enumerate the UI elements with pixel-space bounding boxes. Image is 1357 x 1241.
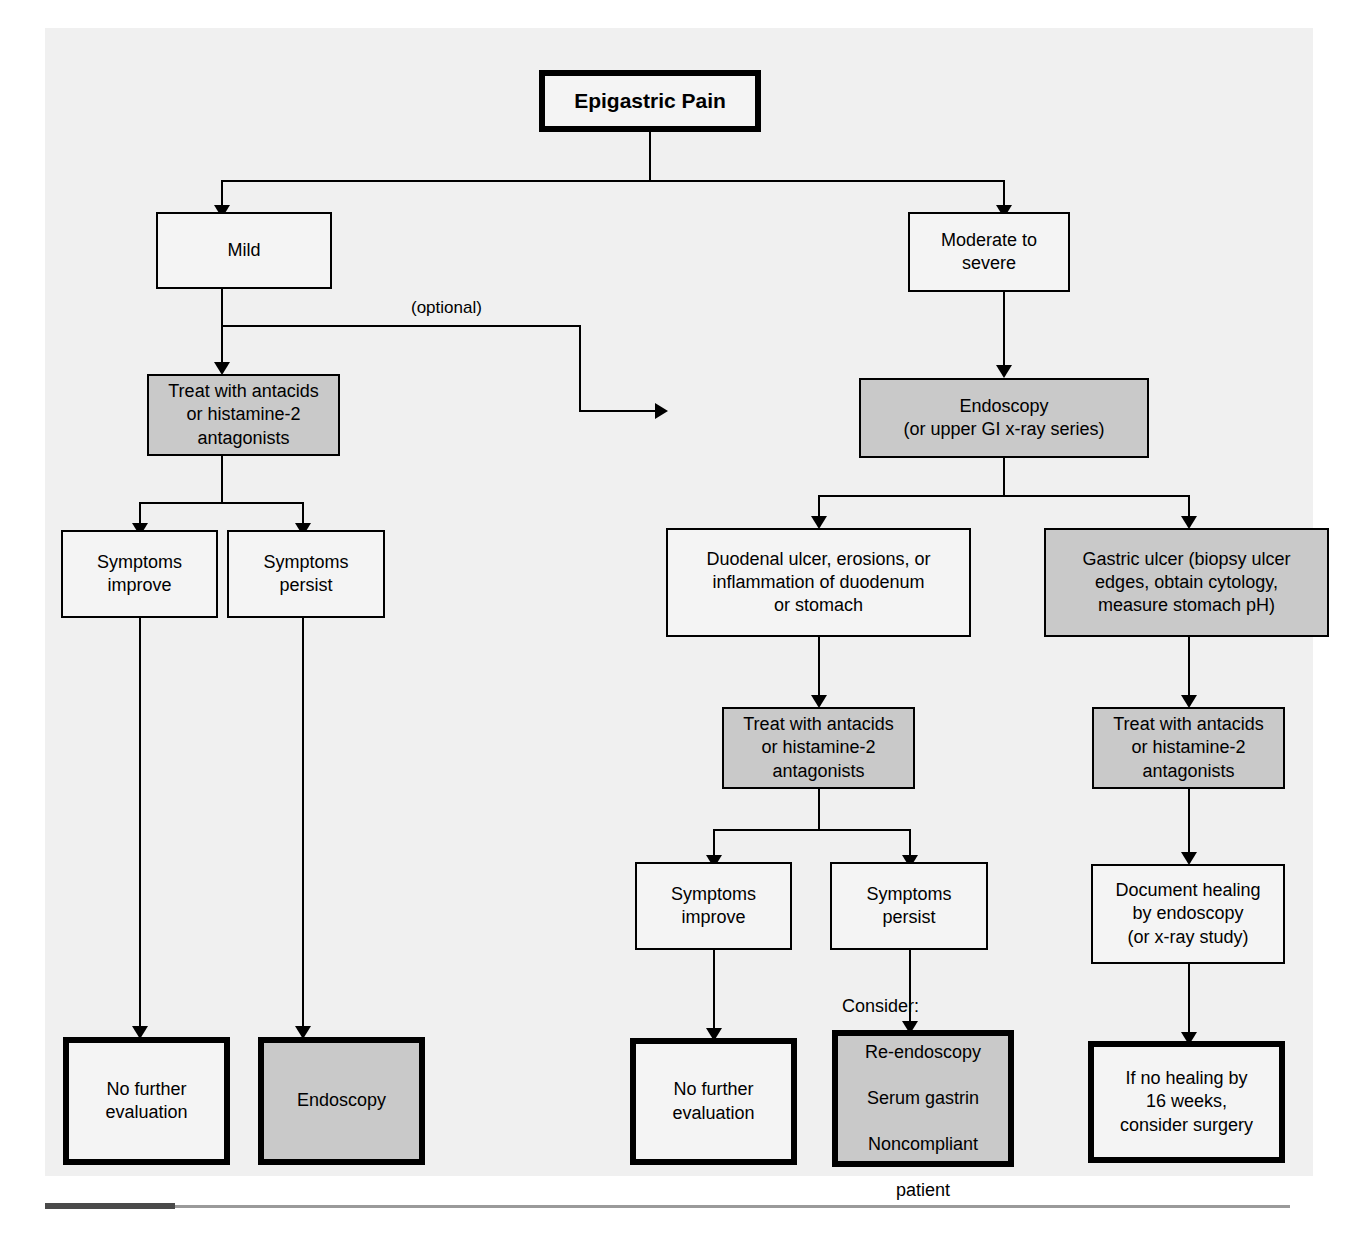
connector-treat-mid-split-bar (713, 829, 911, 831)
node-symptoms-improve-left[interactable]: Symptoms improve (61, 530, 218, 618)
node-moderate-to-severe[interactable]: Moderate to severe (908, 212, 1070, 292)
node-document-healing[interactable]: Document healing by endoscopy (or x-ray … (1091, 864, 1285, 964)
node-duodenal-ulcer-finding[interactable]: Duodenal ulcer, erosions, or inflammatio… (666, 528, 971, 637)
connector-sym-persist-l-to-endoscopy (302, 617, 304, 1035)
node-no-further-evaluation-left[interactable]: No further evaluation (63, 1037, 230, 1165)
figure-page: (optional) Epigastric Pain Mild (0, 0, 1357, 1241)
node-treat-with-antacids-left[interactable]: Treat with antacids or histamine-2 antag… (147, 374, 340, 456)
node-endoscopy-main[interactable]: Endoscopy (or upper GI x-ray series) (859, 378, 1149, 458)
connector-sym-improve-m-to-no-further (713, 949, 715, 1037)
connector-treat-left-split-bar (139, 502, 303, 504)
connector-treat-left-stem (221, 455, 223, 503)
arrow-moderate-to-endoscopy (996, 365, 1012, 378)
consider-header: Consider: (842, 995, 1004, 1018)
node-if-no-healing[interactable]: If no healing by 16 weeks, consider surg… (1088, 1041, 1285, 1163)
node-no-further-evaluation-middle[interactable]: No further evaluation (630, 1038, 797, 1165)
connector-optional-horizontal-bottom (579, 410, 659, 412)
node-symptoms-persist-left[interactable]: Symptoms persist (227, 530, 385, 618)
connector-document-to-no-healing (1188, 963, 1190, 1041)
arrow-optional-to-endoscopy (655, 403, 668, 419)
consider-item-serum-gastrin: Serum gastrin (842, 1087, 1004, 1110)
connector-root-split-bar (221, 180, 1004, 182)
connector-root-stem (649, 131, 651, 181)
node-symptoms-improve-middle[interactable]: Symptoms improve (635, 862, 792, 950)
connector-optional-horizontal-top (221, 325, 581, 327)
connector-endoscopy-split-bar (818, 495, 1190, 497)
edge-label-optional: (optional) (411, 298, 482, 318)
footer-rule (45, 1205, 1290, 1208)
node-consider-options[interactable]: Consider: Re-endoscopy Serum gastrin Non… (832, 1030, 1014, 1167)
connector-treat-mid-stem (818, 788, 820, 831)
node-treat-with-antacids-right[interactable]: Treat with antacids or histamine-2 antag… (1092, 707, 1285, 789)
connector-moderate-to-endoscopy (1003, 291, 1005, 376)
node-mild[interactable]: Mild (156, 212, 332, 289)
node-endoscopy-terminal[interactable]: Endoscopy (258, 1037, 425, 1165)
node-gastric-ulcer-finding[interactable]: Gastric ulcer (biopsy ulcer edges, obtai… (1044, 528, 1329, 637)
footer-rule-accent (45, 1203, 175, 1209)
consider-item-patient: patient (842, 1179, 1004, 1202)
consider-item-noncompliant: Noncompliant (842, 1133, 1004, 1156)
consider-item-re-endoscopy: Re-endoscopy (842, 1041, 1004, 1064)
node-epigastric-pain[interactable]: Epigastric Pain (539, 70, 761, 132)
node-symptoms-persist-middle[interactable]: Symptoms persist (830, 862, 988, 950)
node-treat-with-antacids-middle[interactable]: Treat with antacids or histamine-2 antag… (722, 707, 915, 789)
connector-optional-vertical (579, 325, 581, 411)
connector-sym-improve-l-to-no-further (139, 617, 141, 1035)
connector-mild-to-treat-left (221, 288, 223, 373)
connector-endoscopy-stem (1003, 457, 1005, 497)
